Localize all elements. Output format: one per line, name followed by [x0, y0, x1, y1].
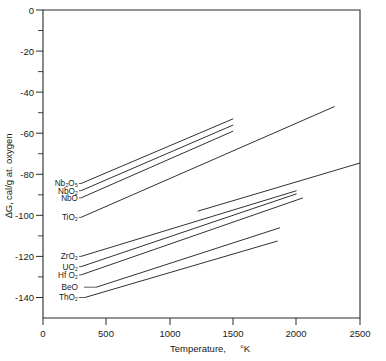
y-axis-title-delta-g: ∆G,: [3, 202, 14, 218]
series-line-unlabeled-upper-right: [198, 163, 360, 211]
y-tick-label-minus140: -140: [15, 292, 34, 303]
x-tick-label-500: 500: [98, 328, 114, 339]
series-labels: Nb₂O₅ NbO₂ NbO TiO₂ ZrO₂ UO₂ Hf O₂ BeO T…: [55, 179, 78, 302]
free-energy-vs-temperature-chart: 0 500 1000 1500 2000 2500 Temperature, °…: [0, 0, 386, 361]
y-tick-label-minus20: -20: [20, 46, 34, 57]
series-line-tio2: [81, 107, 335, 218]
x-axis-title: Temperature,: [170, 343, 226, 354]
x-axis-ticks: [43, 318, 360, 325]
series-line-uo2: [81, 194, 297, 267]
series-label-nbo: NbO: [61, 194, 78, 203]
x-tick-label-1000: 1000: [159, 328, 180, 339]
chart-container: 0 500 1000 1500 2000 2500 Temperature, °…: [0, 0, 386, 361]
series-label-tho2: ThO₂: [59, 293, 78, 302]
y-tick-label-0: 0: [29, 5, 34, 16]
y-tick-label-minus100: -100: [15, 210, 34, 221]
series-line-zro2: [81, 191, 297, 257]
x-tick-label-2500: 2500: [349, 328, 370, 339]
y-tick-label-minus120: -120: [15, 251, 34, 262]
x-tick-labels: 0 500 1000 1500 2000 2500: [40, 328, 370, 339]
y-tick-label-minus60: -60: [20, 128, 34, 139]
series-lines: [81, 107, 360, 298]
series-label-tio2: TiO₂: [62, 213, 78, 222]
series-line-nbo2: [81, 125, 233, 191]
series-line-beo: [96, 228, 280, 288]
series-line-nbo: [81, 131, 233, 198]
series-line-tho2: [85, 241, 278, 298]
y-axis-title-group: ∆G, cal/g at. oxygen: [3, 133, 14, 218]
y-tick-labels: 0 -20 -40 -60 -80 -100 -120 -140: [15, 5, 34, 304]
y-axis-ticks-minor: [38, 31, 43, 277]
y-axis-title-units: cal/g at. oxygen: [3, 133, 14, 200]
x-axis-title-group: Temperature, °K: [170, 343, 251, 354]
series-label-zro2: ZrO₂: [61, 252, 78, 261]
x-tick-label-2000: 2000: [285, 328, 306, 339]
series-line-hfo2: [81, 198, 303, 275]
x-tick-label-0: 0: [40, 328, 45, 339]
x-tick-label-1500: 1500: [222, 328, 243, 339]
series-line-nb2o5: [81, 119, 233, 184]
series-label-hfo2: Hf O₂: [58, 271, 78, 280]
x-axis-unit: °K: [240, 343, 251, 354]
label-leaders: [79, 184, 96, 298]
y-tick-label-minus40: -40: [20, 87, 34, 98]
series-label-beo: BeO: [62, 283, 78, 292]
y-tick-label-minus80: -80: [20, 169, 34, 180]
